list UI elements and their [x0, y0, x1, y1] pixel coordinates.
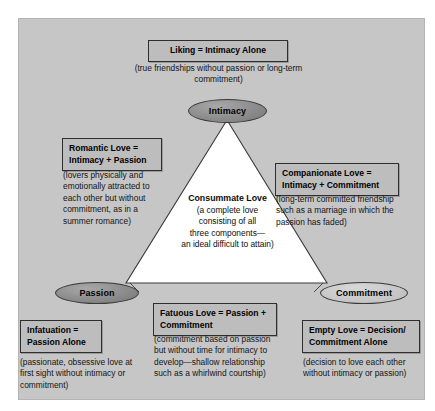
node-intimacy[interactable]: Intimacy [188, 99, 267, 123]
callout-infatuation-title[interactable]: Infatuation = Passion Alone [20, 320, 102, 353]
callout-romantic-description: (lovers physically and emotionally attra… [63, 170, 166, 227]
callout-fatuous-description: (commitment based on passion but without… [154, 334, 278, 380]
callout-fatuous-title[interactable]: Fatuous Love = Passion + Commitment [153, 303, 277, 336]
node-intimacy-label: Intimacy [209, 106, 246, 116]
callout-liking-description: (true friendships without passion or lon… [127, 63, 310, 86]
callout-liking-title[interactable]: Liking = Intimacy Alone [148, 40, 288, 62]
callout-infatuation-description: (passionate, obsessive love at first sig… [20, 357, 142, 391]
callout-romantic-title[interactable]: Romantic Love = Intimacy + Passion [62, 138, 162, 171]
callout-empty-title[interactable]: Empty Love = Decision/ Commitment Alone [302, 320, 420, 353]
node-commitment[interactable]: Commitment [320, 282, 408, 304]
callout-companionate-title[interactable]: Companionate Love = Intimacy + Commitmen… [275, 163, 399, 196]
callout-companionate-description: (long-term committed friendship such as … [276, 194, 403, 228]
node-commitment-label: Commitment [336, 288, 392, 298]
node-passion[interactable]: Passion [55, 282, 139, 304]
consummate-line-1: (a complete love [197, 205, 258, 215]
consummate-line-3: three components— [190, 228, 265, 238]
callout-empty-description: (decision to love each other without int… [303, 357, 423, 380]
love-triangle-figure: Intimacy Passion Commitment Consummate L… [0, 0, 435, 411]
consummate-line-2: consisting of all [199, 216, 256, 226]
consummate-line-4: an ideal difficult to attain) [181, 239, 274, 249]
node-passion-label: Passion [79, 288, 114, 298]
